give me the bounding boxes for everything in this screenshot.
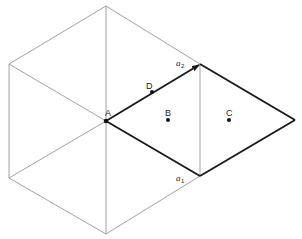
- label-a1-sub: 1: [181, 178, 185, 184]
- hex-edge-top-left: [9, 6, 106, 64]
- hex-edge-bottom-left: [9, 178, 106, 234]
- vector-a1: [106, 121, 200, 176]
- point-c: [227, 118, 231, 122]
- label-a: A: [105, 108, 111, 118]
- point-a: [104, 119, 109, 124]
- hex-edge-top-right: [106, 6, 200, 64]
- label-a2: a 2: [176, 58, 185, 69]
- cell-edge-lower-right: [200, 120, 295, 176]
- label-d: D: [146, 81, 153, 91]
- unit-cell: [106, 64, 295, 176]
- spoke-upper-left: [9, 64, 106, 121]
- label-b: B: [165, 108, 171, 118]
- label-a2-sub: 2: [181, 63, 185, 69]
- spoke-lower-left: [9, 121, 106, 178]
- label-a1: a 1: [176, 173, 185, 184]
- point-b: [166, 118, 170, 122]
- hex-edge-bottom-right: [106, 176, 200, 234]
- hexagonal-lattice-diagram: A D B C a 2 a 1: [0, 0, 302, 239]
- label-c: C: [226, 108, 233, 118]
- cell-edge-upper-right: [200, 64, 295, 120]
